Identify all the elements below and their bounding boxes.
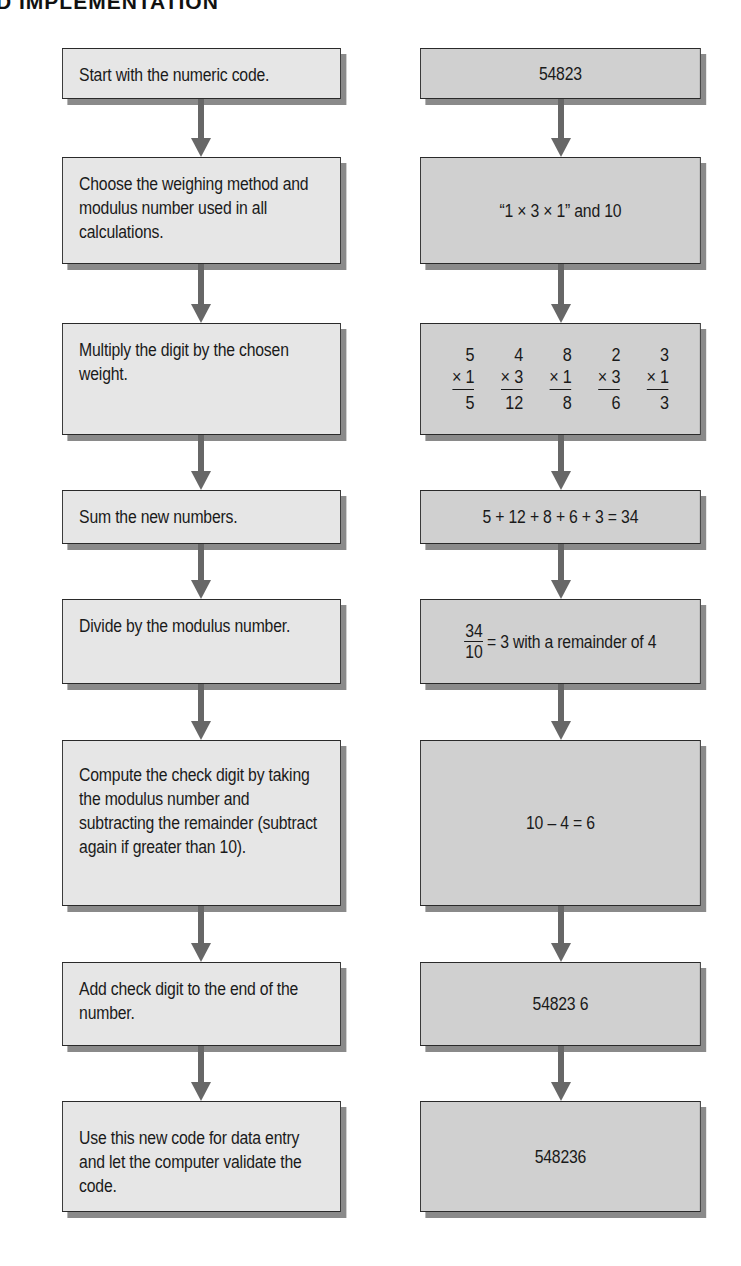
digit: 2 bbox=[611, 344, 620, 366]
multiplication-item: 2 × 3 6 bbox=[598, 344, 620, 414]
product: 8 bbox=[563, 392, 572, 414]
digit: 5 bbox=[466, 344, 475, 366]
example-method: “1 × 3 × 1” and 10 bbox=[499, 199, 621, 223]
weight: × 3 bbox=[501, 366, 523, 390]
example-check-digit: 10 – 4 = 6 bbox=[526, 811, 595, 835]
digit: 3 bbox=[660, 344, 669, 366]
multiplication-item: 5 × 1 5 bbox=[452, 344, 474, 414]
product: 5 bbox=[466, 392, 475, 414]
step-1-text: Start with the numeric code. bbox=[79, 63, 327, 87]
product: 12 bbox=[505, 392, 523, 414]
step-8-text: Use this new code for data entry and let… bbox=[79, 1126, 327, 1198]
arrow-down-icon bbox=[191, 906, 211, 962]
example-sum: 5 + 12 + 8 + 6 + 3 = 34 bbox=[483, 505, 639, 529]
arrow-down-icon bbox=[551, 435, 571, 490]
arrow-down-icon bbox=[191, 264, 211, 323]
multiplication-item: 4 × 3 12 bbox=[501, 344, 523, 414]
step-2-text: Choose the weighing method and modulus n… bbox=[79, 172, 327, 244]
step-7-box: Add check digit to the end of the number… bbox=[62, 962, 341, 1046]
arrow-down-icon bbox=[551, 906, 571, 962]
arrow-down-icon bbox=[191, 1046, 211, 1101]
example-final-box: 548236 bbox=[420, 1101, 701, 1212]
digit: 4 bbox=[514, 344, 523, 366]
example-final-code: 548236 bbox=[535, 1145, 586, 1169]
example-appended: 54823 6 bbox=[533, 992, 589, 1016]
step-1-box: Start with the numeric code. bbox=[62, 48, 341, 99]
arrow-down-icon bbox=[191, 435, 211, 490]
step-8-box: Use this new code for data entry and let… bbox=[62, 1101, 341, 1212]
arrow-down-icon bbox=[191, 99, 211, 157]
example-code: 54823 bbox=[539, 62, 582, 86]
step-5-box: Divide by the modulus number. bbox=[62, 599, 341, 684]
example-appended-box: 54823 6 bbox=[420, 962, 701, 1046]
step-4-text: Sum the new numbers. bbox=[79, 505, 327, 529]
example-check-digit-box: 10 – 4 = 6 bbox=[420, 740, 701, 906]
arrow-down-icon bbox=[551, 544, 571, 599]
denominator: 10 bbox=[465, 642, 482, 662]
step-3-box: Multiply the digit by the chosen weight. bbox=[62, 323, 341, 435]
product: 3 bbox=[660, 392, 669, 414]
step-5-text: Divide by the modulus number. bbox=[79, 614, 327, 638]
weight: × 3 bbox=[598, 366, 620, 390]
division-result: = 3 with a remainder of 4 bbox=[487, 630, 656, 654]
numerator: 34 bbox=[464, 621, 483, 642]
fraction: 34 10 bbox=[464, 621, 483, 662]
step-6-text: Compute the check digit by taking the mo… bbox=[79, 763, 327, 859]
step-6-box: Compute the check digit by taking the mo… bbox=[62, 740, 341, 906]
example-multiply-box: 5 × 1 5 4 × 3 12 8 × 1 8 2 × 3 6 3 × 1 bbox=[420, 323, 701, 435]
arrow-down-icon bbox=[191, 544, 211, 599]
step-2-box: Choose the weighing method and modulus n… bbox=[62, 157, 341, 264]
example-division-box: 34 10 = 3 with a remainder of 4 bbox=[420, 599, 701, 684]
multiplication-item: 8 × 1 8 bbox=[549, 344, 571, 414]
arrow-down-icon bbox=[551, 684, 571, 740]
product: 6 bbox=[611, 392, 620, 414]
step-7-text: Add check digit to the end of the number… bbox=[79, 977, 327, 1025]
arrow-down-icon bbox=[551, 264, 571, 323]
page-header: D IMPLEMENTATION bbox=[0, 0, 219, 14]
example-sum-box: 5 + 12 + 8 + 6 + 3 = 34 bbox=[420, 490, 701, 544]
example-method-box: “1 × 3 × 1” and 10 bbox=[420, 157, 701, 264]
example-code-box: 54823 bbox=[420, 48, 701, 99]
arrow-down-icon bbox=[191, 684, 211, 740]
multiplication-item: 3 × 1 3 bbox=[646, 344, 668, 414]
weight: × 1 bbox=[549, 366, 571, 390]
digit: 8 bbox=[563, 344, 572, 366]
multiplication-table: 5 × 1 5 4 × 3 12 8 × 1 8 2 × 3 6 3 × 1 bbox=[421, 344, 700, 414]
weight: × 1 bbox=[452, 366, 474, 390]
step-4-box: Sum the new numbers. bbox=[62, 490, 341, 544]
weight: × 1 bbox=[646, 366, 668, 390]
arrow-down-icon bbox=[551, 99, 571, 157]
arrow-down-icon bbox=[551, 1046, 571, 1101]
step-3-text: Multiply the digit by the chosen weight. bbox=[79, 338, 327, 386]
